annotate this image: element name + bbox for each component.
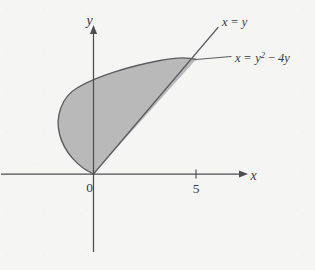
parabola-equation-label: x=y2−4y bbox=[234, 50, 290, 66]
x-axis-label: x bbox=[250, 168, 258, 183]
line-eq-equals: = bbox=[231, 15, 238, 29]
parabola-eq-x: x bbox=[234, 51, 241, 65]
graph-canvas: x y 0 5 x=y x=y2−4y bbox=[0, 0, 315, 270]
parabola-eq-tail: 4y bbox=[278, 51, 290, 65]
parabola-eq-exponent: 2 bbox=[261, 50, 266, 60]
parabola-eq-minus: − bbox=[268, 51, 275, 65]
figure-container: x y 0 5 x=y x=y2−4y bbox=[0, 0, 315, 270]
shaded-region bbox=[58, 58, 196, 174]
parabola-eq-equals: = bbox=[244, 51, 251, 65]
line-equation-label: x=y bbox=[221, 15, 248, 29]
x-tick-label-5: 5 bbox=[193, 181, 200, 196]
line-eq-x: x bbox=[221, 15, 228, 29]
line-eq-y: y bbox=[240, 15, 248, 29]
x-axis-arrowhead-icon bbox=[239, 170, 248, 177]
y-axis-label: y bbox=[85, 13, 94, 28]
parabola-label-leader bbox=[196, 57, 231, 60]
origin-label: 0 bbox=[86, 180, 93, 195]
